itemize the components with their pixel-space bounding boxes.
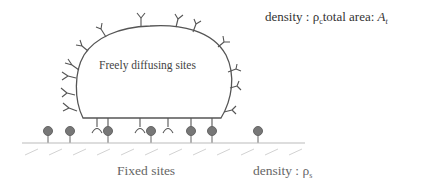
fixed-site-icon bbox=[187, 127, 196, 144]
unbound-receptor-icon bbox=[92, 118, 102, 133]
fixed-site-icon bbox=[66, 127, 75, 144]
fixed-sites bbox=[44, 127, 263, 144]
unbound-receptor-icon bbox=[163, 118, 173, 133]
fixed-site-icon bbox=[44, 127, 53, 144]
receptor-icon bbox=[96, 23, 106, 37]
cell-adhesion-diagram: Freely diffusing sites density : ρctotal… bbox=[0, 0, 428, 185]
fixed-site-icon bbox=[104, 127, 113, 144]
receptor-icon bbox=[65, 59, 79, 70]
receptor-icon bbox=[218, 36, 230, 47]
receptor-icon bbox=[63, 103, 77, 111]
receptor-icon bbox=[62, 72, 76, 80]
unbound-receptor-icon bbox=[135, 118, 145, 133]
surface-density-label: density : ρs bbox=[253, 163, 312, 180]
receptor-icon bbox=[76, 40, 88, 51]
freely-diffusing-sites-label: Freely diffusing sites bbox=[99, 59, 196, 71]
fixed-sites-label: Fixed sites bbox=[117, 163, 175, 179]
diagram-canvas bbox=[0, 0, 428, 185]
cell-membrane bbox=[76, 26, 231, 118]
fixed-site-icon bbox=[254, 127, 263, 144]
fixed-site-icon bbox=[147, 127, 156, 144]
substrate-hatching bbox=[25, 149, 302, 155]
receptor-icon bbox=[175, 14, 183, 27]
receptor-icon bbox=[137, 13, 145, 26]
receptor-icon bbox=[193, 19, 201, 32]
fixed-site-icon bbox=[208, 127, 217, 144]
cell-density-area-label: density : ρctotal area: At bbox=[265, 9, 388, 26]
receptor-icon bbox=[61, 88, 75, 97]
